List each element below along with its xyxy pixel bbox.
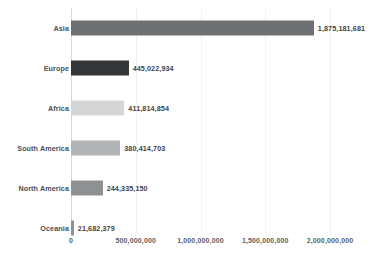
bar-row[interactable]: Europe445,022,934 [71,48,330,88]
bar[interactable] [71,61,129,76]
bar-value-label: 21,682,379 [78,224,115,233]
bar-row[interactable]: North America244,335,150 [71,168,330,208]
bar[interactable] [71,141,120,156]
bar-series: Asia1,875,181,681Europe445,022,934Africa… [71,8,330,233]
bar-row[interactable]: Africa411,814,854 [71,88,330,128]
category-label: Africa [48,104,69,113]
category-label: North America [18,184,69,193]
x-tick-label: 0 [69,237,73,244]
bar[interactable] [71,21,314,36]
category-label: Oceania [40,224,69,233]
category-label: Asia [53,24,69,33]
bar-value-label: 380,414,703 [124,144,165,153]
bar-value-label: 244,335,150 [107,184,148,193]
bar-value-label: 1,875,181,681 [318,24,365,33]
bar[interactable] [71,101,124,116]
x-tick-label: 1,500,000,000 [242,237,289,244]
x-axis: 0500,000,0001,000,000,0001,500,000,0002,… [0,233,391,253]
x-tick-label: 500,000,000 [115,237,156,244]
bar-row[interactable]: Asia1,875,181,681 [71,8,330,48]
gridline-4 [330,8,331,233]
x-tick-label: 2,000,000,000 [307,237,354,244]
plot-area: Asia1,875,181,681Europe445,022,934Africa… [71,8,330,233]
bar[interactable] [71,181,103,196]
bar-value-label: 445,022,934 [133,64,174,73]
bar-row[interactable]: South America380,414,703 [71,128,330,168]
category-label: South America [17,144,69,153]
bar-chart: Asia1,875,181,681Europe445,022,934Africa… [0,0,391,260]
bar-value-label: 411,814,854 [128,104,169,113]
category-label: Europe [44,64,69,73]
x-tick-label: 1,000,000,000 [177,237,224,244]
